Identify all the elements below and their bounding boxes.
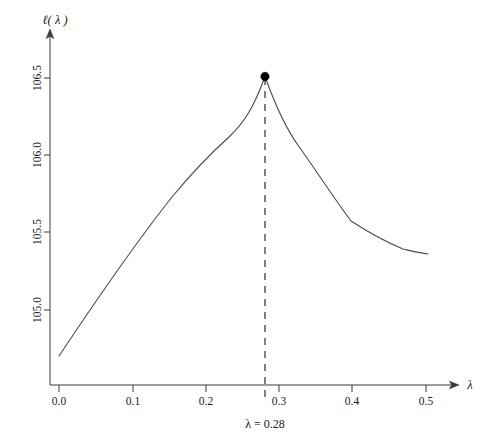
y-tick-label-106-5: 106.5	[31, 65, 43, 91]
x-axis-ticks	[59, 385, 426, 392]
x-tick-label-0-3: 0.3	[272, 395, 287, 407]
profile-likelihood-chart: 106.5 106.0 105.5 105.0 0.0 0.1 0.2 0.3 …	[0, 0, 492, 443]
x-axis-tick-labels: 0.0 0.1 0.2 0.3 0.4 0.5	[52, 395, 434, 407]
x-tick-label-0-5: 0.5	[419, 395, 434, 407]
y-tick-label-105-0: 105.0	[31, 297, 43, 323]
x-tick-label-0-0: 0.0	[52, 395, 67, 407]
lambda-hat-annotation: λ = 0.28	[245, 417, 285, 431]
x-tick-label-0-1: 0.1	[126, 395, 141, 407]
x-tick-label-0-4: 0.4	[345, 395, 360, 407]
chart-canvas: 106.5 106.0 105.5 105.0 0.0 0.1 0.2 0.3 …	[0, 0, 492, 443]
x-tick-label-0-2: 0.2	[199, 395, 214, 407]
y-axis-tick-labels: 106.5 106.0 105.5 105.0	[31, 65, 43, 323]
maximum-point-marker	[261, 72, 269, 80]
x-axis	[50, 381, 459, 389]
likelihood-curve	[59, 77, 428, 357]
y-axis-ticks	[44, 78, 50, 310]
y-tick-label-105-5: 105.5	[31, 219, 43, 245]
x-axis-title: λ	[466, 378, 473, 392]
y-axis-title: ℓ( λ )	[42, 13, 67, 27]
y-axis	[46, 29, 54, 385]
y-tick-label-106-0: 106.0	[31, 142, 43, 168]
